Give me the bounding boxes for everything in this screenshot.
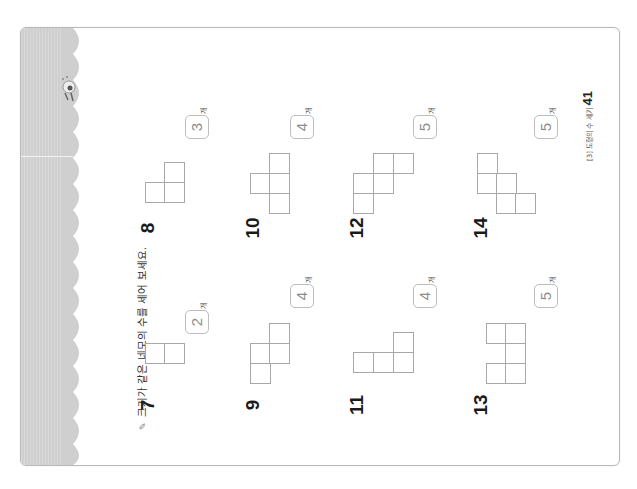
square-cell bbox=[269, 323, 290, 344]
question-number-9: 9 bbox=[243, 390, 263, 420]
unit-label: 개 bbox=[304, 275, 314, 285]
square-cell bbox=[496, 173, 517, 194]
answer-box-11[interactable]: 4 bbox=[413, 284, 437, 308]
answer-box-8[interactable]: 3 bbox=[185, 115, 209, 139]
square-cell bbox=[393, 332, 414, 353]
question-number-7: 7 bbox=[138, 390, 158, 420]
square-cell bbox=[496, 193, 517, 214]
answer-value: 5 bbox=[535, 285, 557, 307]
worksheet-page bbox=[20, 27, 620, 466]
square-cell bbox=[164, 162, 185, 183]
square-cell bbox=[505, 363, 526, 384]
unit-label: 개 bbox=[304, 106, 314, 116]
answer-value: 4 bbox=[291, 285, 313, 307]
square-cell bbox=[486, 363, 507, 384]
question-number-10: 10 bbox=[243, 213, 263, 243]
square-cell bbox=[164, 343, 185, 364]
page-footer: [3] 도형의 수 세기41 bbox=[581, 41, 595, 161]
square-cell bbox=[505, 323, 526, 344]
answer-box-7[interactable]: 2 bbox=[185, 310, 209, 334]
square-cell bbox=[250, 173, 271, 194]
square-cell bbox=[477, 173, 498, 194]
answer-box-9[interactable]: 4 bbox=[290, 284, 314, 308]
square-cell bbox=[477, 153, 498, 174]
square-cell bbox=[486, 323, 507, 344]
square-cell bbox=[353, 352, 374, 373]
square-cell bbox=[250, 363, 271, 384]
square-cell bbox=[145, 182, 166, 203]
chapter-title: [3] 도형의 수 세기 bbox=[586, 108, 594, 161]
square-cell bbox=[269, 153, 290, 174]
question-number-13: 13 bbox=[471, 390, 491, 420]
answer-box-12[interactable]: 5 bbox=[413, 115, 437, 139]
question-number-8: 8 bbox=[138, 213, 158, 243]
square-cell bbox=[353, 173, 374, 194]
answer-value: 5 bbox=[414, 116, 436, 138]
mascot-illustration-icon bbox=[57, 73, 79, 103]
answer-box-10[interactable]: 4 bbox=[290, 115, 314, 139]
unit-label: 개 bbox=[427, 275, 437, 285]
band-divider-line bbox=[21, 156, 73, 157]
unit-label: 개 bbox=[199, 106, 209, 116]
question-number-14: 14 bbox=[471, 213, 491, 243]
square-cell bbox=[373, 153, 394, 174]
answer-value: 3 bbox=[186, 116, 208, 138]
square-cell bbox=[515, 193, 536, 214]
answer-value: 4 bbox=[291, 116, 313, 138]
square-cell bbox=[393, 153, 414, 174]
pencil-bullet-icon: ✎ bbox=[136, 420, 146, 430]
answer-value: 4 bbox=[414, 285, 436, 307]
unit-label: 개 bbox=[548, 275, 558, 285]
square-cell bbox=[145, 343, 166, 364]
square-cell bbox=[393, 352, 414, 373]
unit-label: 개 bbox=[199, 301, 209, 311]
square-cell bbox=[505, 343, 526, 364]
question-number-12: 12 bbox=[347, 213, 367, 243]
square-cell bbox=[373, 173, 394, 194]
square-cell bbox=[353, 193, 374, 214]
square-cell bbox=[269, 173, 290, 194]
answer-value: 5 bbox=[535, 116, 557, 138]
square-cell bbox=[269, 343, 290, 364]
page-number: 41 bbox=[580, 91, 595, 105]
question-number-11: 11 bbox=[347, 390, 367, 420]
square-cell bbox=[250, 343, 271, 364]
square-cell bbox=[373, 352, 394, 373]
answer-value: 2 bbox=[186, 311, 208, 333]
unit-label: 개 bbox=[548, 106, 558, 116]
square-cell bbox=[269, 193, 290, 214]
answer-box-13[interactable]: 5 bbox=[534, 284, 558, 308]
unit-label: 개 bbox=[427, 106, 437, 116]
answer-box-14[interactable]: 5 bbox=[534, 115, 558, 139]
square-cell bbox=[164, 182, 185, 203]
